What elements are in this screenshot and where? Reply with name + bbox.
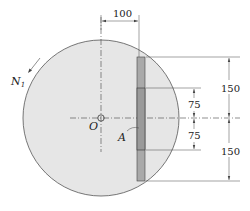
arrow-icon bbox=[193, 119, 195, 123]
arrow-icon bbox=[193, 89, 195, 93]
dim-lower-outer-label: 150 bbox=[221, 146, 240, 157]
dim-upper-inner-label: 75 bbox=[188, 99, 201, 110]
dim-offset-label: 100 bbox=[113, 8, 132, 19]
arrow-icon bbox=[193, 113, 195, 117]
arrow-icon bbox=[228, 119, 230, 123]
plate-label: A bbox=[117, 131, 126, 144]
arrow-icon bbox=[228, 176, 230, 180]
arrow-icon bbox=[193, 145, 195, 149]
arrow-icon bbox=[228, 58, 230, 62]
arrow-icon bbox=[134, 20, 138, 22]
rotation-label: N1 bbox=[10, 75, 25, 89]
dim-lower-inner-label: 75 bbox=[188, 130, 201, 141]
arrow-icon bbox=[228, 113, 230, 117]
center-label: O bbox=[89, 120, 98, 133]
diagram-canvas: 100 150 150 75 75 N1 O A bbox=[0, 0, 250, 211]
dim-upper-outer-label: 150 bbox=[221, 83, 240, 94]
plate-inner-section bbox=[137, 88, 145, 150]
arrow-icon bbox=[102, 20, 106, 22]
